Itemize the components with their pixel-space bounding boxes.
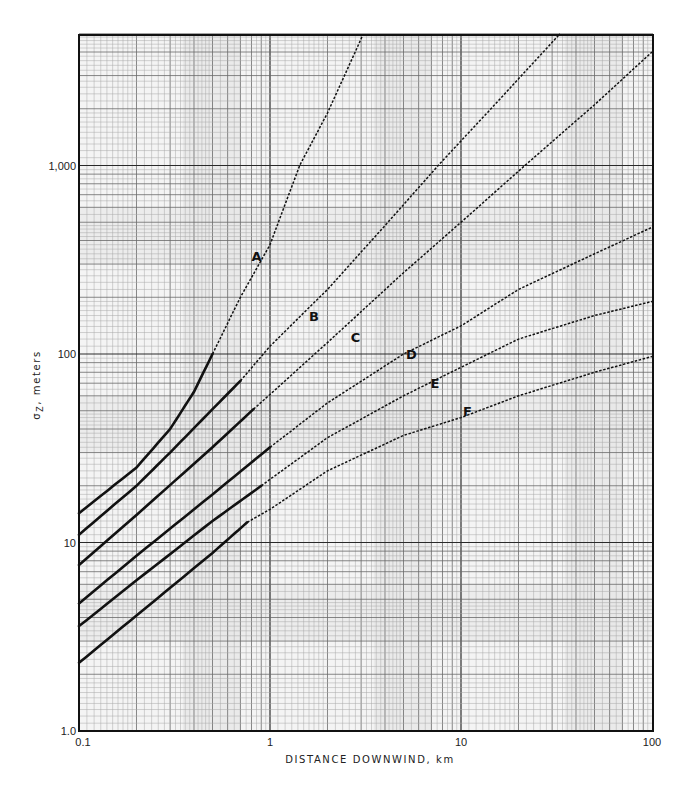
x-tick-label: 1	[267, 736, 273, 748]
x-tick-label: 10	[455, 736, 467, 748]
y-axis-unit: , meters	[31, 350, 42, 404]
y-tick-label: 1,000	[48, 160, 76, 172]
curve-label-e: E	[430, 376, 439, 391]
curve-label-c: C	[351, 330, 361, 345]
curve-label-b: B	[309, 309, 319, 324]
curve-label-d: D	[406, 347, 417, 362]
curve-label-a: A	[251, 249, 261, 264]
x-axis-title: DISTANCE DOWNWIND, km	[285, 754, 455, 765]
y-axis-subscript: Z	[36, 405, 45, 412]
y-tick-label: 1.0	[61, 725, 76, 737]
y-tick-label: 100	[58, 348, 76, 360]
x-tick-label: 0.1	[75, 736, 90, 748]
curve-label-f: F	[463, 404, 472, 419]
y-axis-ticks: 1.0101001,000	[48, 160, 76, 738]
y-axis-sigma: σ	[31, 412, 42, 420]
x-tick-label: 100	[643, 736, 661, 748]
y-axis-title: σZ, meters	[31, 350, 45, 420]
x-axis-ticks: 0.1110100	[75, 736, 661, 748]
y-tick-label: 10	[64, 537, 76, 549]
sigma-z-chart: ABCDEF 0.1110100 1.0101001,000 DISTANCE …	[0, 0, 694, 802]
